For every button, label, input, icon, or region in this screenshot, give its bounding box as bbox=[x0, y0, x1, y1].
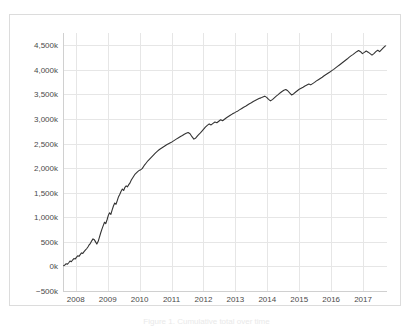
y-axis-tick-label: 1,000k bbox=[34, 213, 59, 222]
y-axis-tick-labels: −500k0k500k1,000k1,500k2,000k2,500k3,000… bbox=[34, 41, 59, 296]
vertical-gridlines bbox=[77, 33, 364, 291]
figure-caption: Figure 1. Cumulative total over time bbox=[0, 316, 413, 327]
x-axis-tick-label: 2011 bbox=[163, 295, 181, 304]
x-axis-tick-label: 2016 bbox=[322, 295, 340, 304]
x-axis-tick-label: 2017 bbox=[354, 295, 372, 304]
x-axis-tick-label: 2009 bbox=[99, 295, 117, 304]
y-axis-tick-label: 2,500k bbox=[34, 140, 59, 149]
x-axis-tick-label: 2015 bbox=[290, 295, 308, 304]
x-axis-tick-label: 2010 bbox=[131, 295, 149, 304]
chart-frame: −500k0k500k1,000k1,500k2,000k2,500k3,000… bbox=[9, 14, 401, 306]
data-series-group bbox=[64, 46, 386, 266]
y-axis-tick-label: 4,500k bbox=[34, 41, 59, 50]
x-axis-tick-label: 2013 bbox=[226, 295, 244, 304]
x-axis-tick-label: 2008 bbox=[67, 295, 85, 304]
data-line-cumulative-total bbox=[64, 46, 386, 266]
x-axis-tick-label: 2014 bbox=[258, 295, 276, 304]
line-chart: −500k0k500k1,000k1,500k2,000k2,500k3,000… bbox=[10, 15, 400, 305]
y-axis-tick-label: 4,000k bbox=[34, 66, 59, 75]
y-axis-tick-label: −500k bbox=[36, 287, 59, 296]
y-axis-tick-label: 1,500k bbox=[34, 189, 59, 198]
figure-container: −500k0k500k1,000k1,500k2,000k2,500k3,000… bbox=[0, 0, 413, 327]
axis-lines bbox=[63, 33, 387, 292]
y-axis-tick-label: 500k bbox=[41, 238, 59, 247]
y-axis-tick-label: 3,500k bbox=[34, 90, 59, 99]
x-axis-tick-label: 2012 bbox=[195, 295, 213, 304]
x-axis-tick-labels: 2008200920102011201220132014201520162017 bbox=[67, 295, 373, 304]
horizontal-gridlines bbox=[63, 46, 387, 292]
y-axis-tick-label: 2,000k bbox=[34, 164, 59, 173]
y-axis-tick-label: 3,000k bbox=[34, 115, 59, 124]
y-axis-tick-label: 0k bbox=[50, 262, 59, 271]
